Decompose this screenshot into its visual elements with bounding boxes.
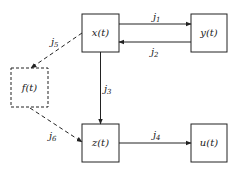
- svg-text:j2: j2: [149, 46, 159, 59]
- edge-j3: j3: [101, 52, 113, 124]
- node-x-label: x(t): [92, 27, 110, 38]
- edge-j6: j6: [30, 108, 82, 143]
- node-f-label: f(t): [21, 82, 38, 93]
- node-z: z(t): [82, 124, 119, 162]
- edge-j5: j5: [31, 33, 82, 68]
- edge-j4: j4: [119, 129, 191, 143]
- svg-text:j3: j3: [102, 83, 112, 96]
- node-y-label: y(t): [199, 27, 218, 38]
- node-u-label: u(t): [200, 137, 218, 148]
- svg-text:j6: j6: [47, 130, 57, 143]
- svg-text:j4: j4: [151, 129, 161, 142]
- node-y: y(t): [191, 14, 227, 52]
- node-z-label: z(t): [91, 137, 109, 148]
- edge-j1: j1: [119, 11, 191, 24]
- flow-diagram: x(t) y(t) f(t) z(t) u(t) j1 j2 j3 j4 j5 …: [0, 0, 236, 171]
- svg-text:j1: j1: [151, 11, 161, 24]
- svg-text:j5: j5: [49, 36, 59, 49]
- node-f: f(t): [11, 68, 48, 107]
- node-x: x(t): [82, 14, 119, 52]
- node-u: u(t): [191, 124, 227, 162]
- edge-j2: j2: [119, 42, 191, 59]
